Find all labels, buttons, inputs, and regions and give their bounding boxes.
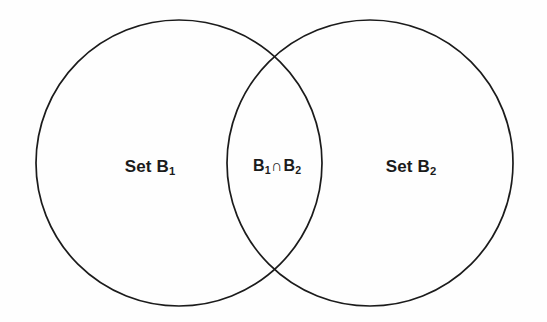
label-set-b1: Set B1 [125, 158, 176, 175]
label-intersection-second-subscript: 2 [295, 164, 301, 176]
label-set-b2-text: Set B [386, 157, 430, 176]
label-set-b1-subscript: 1 [169, 165, 175, 177]
label-intersection-first-letter: B [253, 157, 265, 174]
label-set-b2-subscript: 2 [430, 165, 436, 177]
label-intersection-first-subscript: 1 [265, 164, 271, 176]
label-set-b1-text: Set B [125, 157, 169, 176]
venn-diagram-figure: Set B1 B1∩B2 Set B2 [0, 0, 547, 322]
label-set-b2: Set B2 [386, 158, 437, 175]
label-intersection-second-letter: B [283, 157, 295, 174]
intersection-operator-icon: ∩ [271, 157, 284, 174]
label-b1-intersect-b2: B1∩B2 [253, 158, 301, 174]
